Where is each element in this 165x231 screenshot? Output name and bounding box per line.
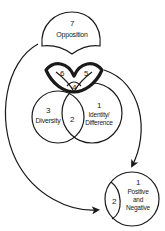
positive-negative-label-1: Positive <box>127 188 149 195</box>
positive-negative-node: 2 1 Positive and Negative <box>105 172 159 226</box>
arrow-eye-to-positive-negative <box>104 70 141 166</box>
identity-difference-number: 1 <box>97 101 102 110</box>
identity-difference-label-2: Difference <box>85 119 113 126</box>
opposition-node: 7 Opposition <box>42 12 100 54</box>
venn-overlap-number: 2 <box>70 115 75 124</box>
opposition-label: Opposition <box>56 31 88 39</box>
diagram-canvas: 7 Opposition 3 Diversity 2 1 Identity/ D… <box>0 0 165 231</box>
positive-negative-label-3: Negative <box>126 204 151 212</box>
positive-negative-label-2: and <box>133 196 144 203</box>
diversity-number: 3 <box>46 106 51 115</box>
eye-node: 6 4 5 <box>46 64 102 92</box>
identity-difference-label-1: Identity/ <box>89 111 110 119</box>
diagram-svg: 7 Opposition 3 Diversity 2 1 Identity/ D… <box>0 0 165 231</box>
diversity-label: Diversity <box>35 117 61 125</box>
